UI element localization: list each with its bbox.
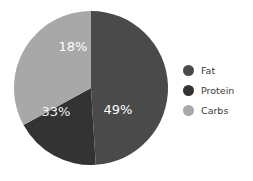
pie-slice-label-fat: 49% (104, 102, 133, 117)
legend-swatch-protein-icon (183, 85, 194, 96)
legend-item-carbs[interactable]: Carbs (183, 104, 253, 117)
legend-label: Carbs (201, 106, 228, 116)
legend-label: Fat (201, 66, 215, 76)
legend-item-fat[interactable]: Fat (183, 64, 253, 77)
legend-label: Protein (201, 86, 234, 96)
chart-legend: FatProteinCarbs (183, 64, 253, 117)
pie-slice-group (14, 11, 168, 165)
pie-slice-label-carbs: 33% (42, 104, 71, 119)
legend-item-protein[interactable]: Protein (183, 84, 253, 97)
pie-chart-figure: 49%18%33% FatProteinCarbs (0, 0, 253, 181)
legend-swatch-fat-icon (183, 65, 194, 76)
pie-slice-label-protein: 18% (59, 39, 88, 54)
pie-slice-fat[interactable] (91, 11, 168, 165)
legend-swatch-carbs-icon (183, 105, 194, 116)
